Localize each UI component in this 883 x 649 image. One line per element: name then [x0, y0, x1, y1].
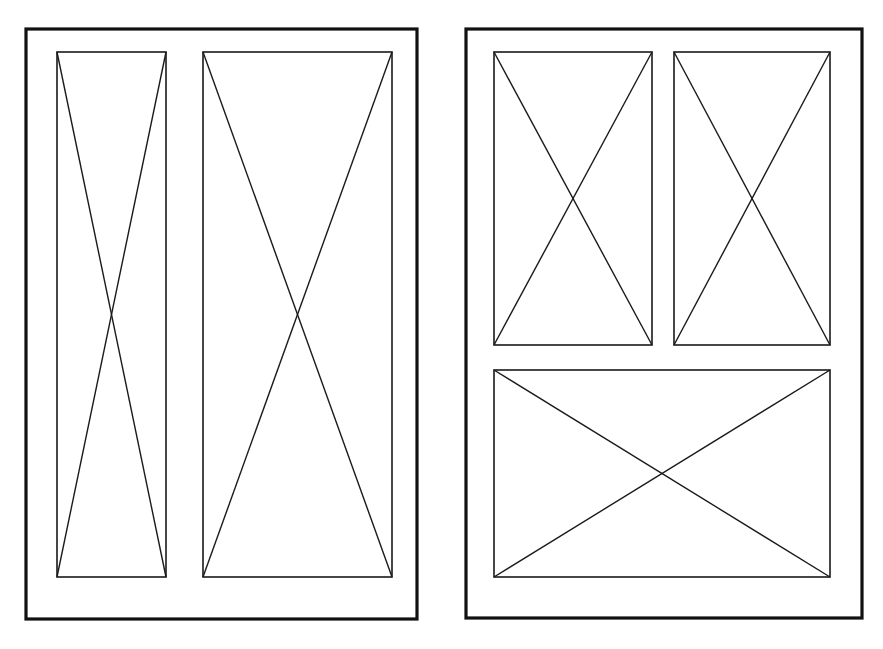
wireframe-canvas: Left page frameNarrow placeholder blockW… — [0, 0, 883, 649]
placeholder-block-top-left: Top left placeholder block — [494, 52, 652, 345]
right-page-frame: Right page frameTop left placeholder blo… — [466, 29, 862, 618]
left-page-frame: Left page frameNarrow placeholder blockW… — [26, 29, 417, 619]
placeholder-block-bottom-wide: Bottom wide placeholder block — [494, 370, 830, 577]
placeholder-block-left-wide: Wide placeholder block — [203, 52, 392, 577]
layout-wireframe-svg: Left page frameNarrow placeholder blockW… — [0, 0, 883, 649]
placeholder-block-left-narrow: Narrow placeholder block — [57, 52, 166, 577]
placeholder-block-top-right: Top right placeholder block — [674, 52, 830, 345]
left-page-frame-border — [26, 29, 417, 619]
right-page-frame-border — [466, 29, 862, 618]
panels-group: Left page frameNarrow placeholder blockW… — [26, 29, 862, 619]
